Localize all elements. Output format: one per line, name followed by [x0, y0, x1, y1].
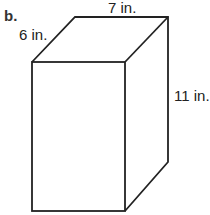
back-edges	[32, 17, 168, 211]
depth-label: 6 in.	[19, 27, 47, 42]
front-face	[32, 62, 125, 211]
part-label: b.	[4, 8, 17, 23]
width-label: 7 in.	[108, 0, 136, 15]
height-label: 11 in.	[174, 88, 210, 103]
top-right-edge	[125, 17, 168, 62]
